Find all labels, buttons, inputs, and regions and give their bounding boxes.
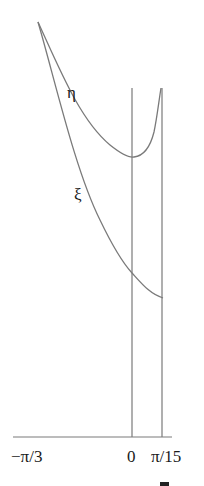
tick-label-zero: 0 — [127, 447, 136, 466]
chart-figure: η ξ −π/3 0 π/15 — [0, 0, 204, 486]
cropped-glyph-fragment — [160, 482, 169, 486]
eta-label: η — [67, 83, 76, 102]
xi-label: ξ — [74, 185, 82, 204]
tick-label-right: π/15 — [151, 447, 181, 466]
tick-label-left: −π/3 — [11, 447, 42, 466]
